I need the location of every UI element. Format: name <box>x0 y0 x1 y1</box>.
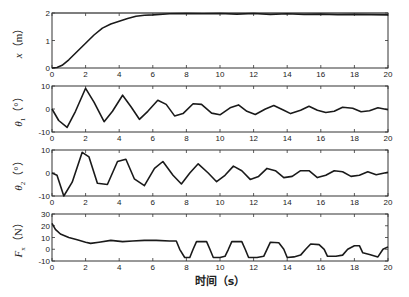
x-tick-label: 0 <box>50 263 55 272</box>
x-tick-label: 14 <box>283 134 292 143</box>
y-tick-label: 20 <box>41 222 50 231</box>
x-tick-label: 18 <box>350 134 359 143</box>
x-tick-label: 2 <box>83 70 88 79</box>
x-tick-label: 8 <box>184 70 189 79</box>
x-tick-label: 20 <box>384 263 393 272</box>
x-tick-label: 18 <box>350 198 359 207</box>
x-tick-label: 20 <box>384 70 393 79</box>
axes-box <box>52 13 388 68</box>
y-tick-label: 0 <box>46 245 51 254</box>
x-tick-label: 10 <box>216 198 225 207</box>
y-tick-label: -10 <box>38 192 50 201</box>
y-axis-label: Fx（N） <box>12 217 27 258</box>
y-tick-label: 30 <box>41 210 50 219</box>
x-tick-label: 2 <box>83 134 88 143</box>
y-axis-label: θ1（°） <box>12 91 27 126</box>
x-tick-label: 0 <box>50 198 55 207</box>
x-tick-label: 12 <box>249 263 258 272</box>
x-tick-label: 4 <box>117 134 122 143</box>
subplot-theta2: 02468101214161820-10010θ2（°） <box>12 146 393 207</box>
x-tick-label: 2 <box>83 263 88 272</box>
x-tick-label: 2 <box>83 198 88 207</box>
x-tick-label: 16 <box>316 263 325 272</box>
x-tick-label: 8 <box>184 198 189 207</box>
y-tick-label: 0 <box>46 105 51 114</box>
x-tick-label: 6 <box>151 70 156 79</box>
x-tick-label: 10 <box>216 263 225 272</box>
subplots: 02468101214161820012x（m）0246810121416182… <box>12 9 393 272</box>
x-tick-label: 8 <box>184 263 189 272</box>
chart-figure: 02468101214161820012x（m）0246810121416182… <box>0 0 409 297</box>
x-tick-label: 14 <box>283 263 292 272</box>
x-tick-label: 0 <box>50 70 55 79</box>
x-tick-label: 6 <box>151 263 156 272</box>
x-tick-label: 20 <box>384 134 393 143</box>
x-tick-label: 16 <box>316 134 325 143</box>
y-tick-label: 10 <box>41 82 50 91</box>
y-tick-label: -10 <box>38 128 50 137</box>
x-tick-label: 6 <box>151 134 156 143</box>
x-tick-label: 16 <box>316 70 325 79</box>
y-tick-label: 0 <box>46 64 51 73</box>
subplot-x-position: 02468101214161820012x（m） <box>12 9 393 79</box>
x-tick-label: 14 <box>283 198 292 207</box>
x-tick-label: 4 <box>117 198 122 207</box>
subplot-force-x: 02468101214161820-100102030Fx（N） <box>12 210 393 272</box>
y-axis-label: θ2（°） <box>12 155 27 190</box>
y-tick-label: 10 <box>41 146 50 155</box>
y-tick-label: 0 <box>46 169 51 178</box>
x-tick-label: 6 <box>151 198 156 207</box>
y-tick-label: -10 <box>38 257 50 266</box>
x-tick-label: 0 <box>50 134 55 143</box>
x-tick-label: 14 <box>283 70 292 79</box>
x-tick-label: 12 <box>249 70 258 79</box>
y-tick-label: 2 <box>46 9 51 18</box>
x-tick-label: 10 <box>216 134 225 143</box>
subplot-theta1: 02468101214161820-10010θ1（°） <box>12 82 393 143</box>
x-tick-label: 4 <box>117 263 122 272</box>
y-tick-label: 10 <box>41 234 50 243</box>
y-tick-label: 1 <box>46 37 51 46</box>
x-tick-label: 10 <box>216 70 225 79</box>
axes-box <box>52 214 388 261</box>
x-tick-label: 18 <box>350 263 359 272</box>
x-tick-label: 4 <box>117 70 122 79</box>
x-tick-label: 8 <box>184 134 189 143</box>
x-axis-label: 时间（s） <box>195 274 246 288</box>
y-axis-label: x（m） <box>12 23 24 59</box>
axes-box <box>52 150 388 196</box>
x-tick-label: 12 <box>249 134 258 143</box>
x-tick-label: 16 <box>316 198 325 207</box>
x-tick-label: 18 <box>350 70 359 79</box>
x-tick-label: 20 <box>384 198 393 207</box>
x-tick-label: 12 <box>249 198 258 207</box>
